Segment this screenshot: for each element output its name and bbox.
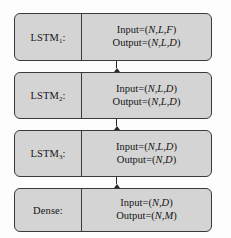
layer-name-cell-1: LSTM1: xyxy=(15,14,82,60)
layer-subscript-3: 3 xyxy=(59,153,63,161)
layer-shapes-cell-3: Input=(N,L,D) Output=(N,D) xyxy=(82,131,211,176)
layer-label-4: Dense: xyxy=(33,205,63,216)
layer-name-cell-3: LSTM3: xyxy=(15,131,82,176)
layer-shapes-cell-2: Input=(N,L,D) Output=(N,L,D) xyxy=(82,73,211,118)
layer-output-shape-3: Output=(N,D) xyxy=(117,154,176,167)
connector-stem-2 xyxy=(116,119,117,126)
layer-box-lstm-3: LSTM3: Input=(N,L,D) Output=(N,D) xyxy=(14,130,212,177)
layer-subscript-1: 1 xyxy=(59,37,63,45)
layer-box-lstm-1: LSTM1: Input=(N,L,F) Output=(N,L,D) xyxy=(14,13,212,61)
layer-name-cell-2: LSTM2: xyxy=(15,73,82,118)
layer-output-shape-2: Output=(N,L,D) xyxy=(113,96,181,109)
layer-input-shape-4: Input=(N,D) xyxy=(120,197,172,210)
connector-arrow-1 xyxy=(112,61,121,72)
layer-input-shape-2: Input=(N,L,D) xyxy=(116,83,177,96)
layer-input-shape-1: Input=(N,L,F) xyxy=(117,24,177,37)
connector-arrow-2 xyxy=(112,119,121,130)
layer-box-lstm-2: LSTM2: Input=(N,L,D) Output=(N,L,D) xyxy=(14,72,212,119)
layer-label-1: LSTM1: xyxy=(30,32,65,43)
layer-output-shape-1: Output=(N,L,D) xyxy=(113,37,181,50)
layer-name-cell-4: Dense: xyxy=(15,189,82,231)
layer-label-3: LSTM3: xyxy=(30,148,65,159)
layer-shapes-cell-1: Input=(N,L,F) Output=(N,L,D) xyxy=(82,14,211,60)
layer-input-shape-3: Input=(N,L,D) xyxy=(116,141,177,154)
layer-shapes-cell-4: Input=(N,D) Output=(N,M) xyxy=(82,189,211,231)
connector-stem-3 xyxy=(116,177,117,184)
layer-output-shape-4: Output=(N,M) xyxy=(116,210,176,223)
layer-box-dense: Dense: Input=(N,D) Output=(N,M) xyxy=(14,188,212,232)
layer-label-2: LSTM2: xyxy=(30,90,65,101)
lstm-layer-stack-diagram: LSTM1: Input=(N,L,F) Output=(N,L,D) LSTM… xyxy=(0,0,231,238)
layer-subscript-2: 2 xyxy=(59,95,63,103)
connector-stem-1 xyxy=(116,61,117,68)
connector-arrow-3 xyxy=(112,177,121,188)
